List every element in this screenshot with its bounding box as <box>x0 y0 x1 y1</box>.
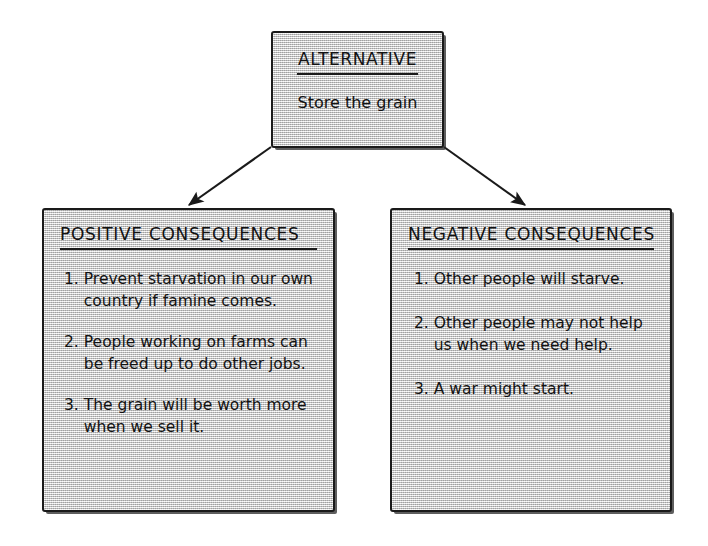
arrow-alternative-to-positive <box>189 147 271 205</box>
alternative-box: ALTERNATIVE Store the grain <box>271 31 444 148</box>
list-item: 1. Other people will starve. <box>414 268 652 290</box>
positive-consequences-box: POSITIVE CONSEQUENCES 1. Prevent starvat… <box>42 208 335 512</box>
alternative-body-text: Store the grain <box>273 93 442 112</box>
diagram-canvas: ALTERNATIVE Store the grain POSITIVE CON… <box>0 0 708 546</box>
negative-consequences-title: NEGATIVE CONSEQUENCES <box>408 224 654 244</box>
list-item-number: 3. <box>414 378 429 400</box>
list-item: 1. Prevent starvation in our own country… <box>64 268 315 312</box>
list-item-text: Other people may not help us when we nee… <box>434 312 652 356</box>
list-item-number: 2. <box>64 331 79 353</box>
list-item-number: 3. <box>64 394 79 416</box>
list-item-text: A war might start. <box>434 378 652 400</box>
negative-header-wrap: NEGATIVE CONSEQUENCES <box>408 224 654 250</box>
positive-consequences-title: POSITIVE CONSEQUENCES <box>60 224 317 244</box>
positive-header-wrap: POSITIVE CONSEQUENCES <box>60 224 317 250</box>
list-item-number: 1. <box>414 268 429 290</box>
list-item-text: The grain will be worth more when we sel… <box>84 394 315 438</box>
negative-consequences-list: 1. Other people will starve. 2. Other pe… <box>414 268 652 400</box>
arrow-alternative-to-negative <box>444 147 525 205</box>
list-item-text: Other people will starve. <box>434 268 652 290</box>
list-item: 2. Other people may not help us when we … <box>414 312 652 356</box>
positive-consequences-list: 1. Prevent starvation in our own country… <box>64 268 315 438</box>
list-item-number: 1. <box>64 268 79 290</box>
list-item: 2. People working on farms can be freed … <box>64 331 315 375</box>
list-item: 3. A war might start. <box>414 378 652 400</box>
list-item-number: 2. <box>414 312 429 334</box>
alternative-title-wrap: ALTERNATIVE <box>287 49 428 75</box>
negative-consequences-box: NEGATIVE CONSEQUENCES 1. Other people wi… <box>390 208 672 512</box>
list-item-text: People working on farms can be freed up … <box>84 331 315 375</box>
positive-title-underline <box>60 248 317 250</box>
alternative-title-underline <box>297 73 418 75</box>
alternative-title: ALTERNATIVE <box>298 49 417 69</box>
list-item: 3. The grain will be worth more when we … <box>64 394 315 438</box>
negative-title-underline <box>408 248 654 250</box>
list-item-text: Prevent starvation in our own country if… <box>84 268 315 312</box>
